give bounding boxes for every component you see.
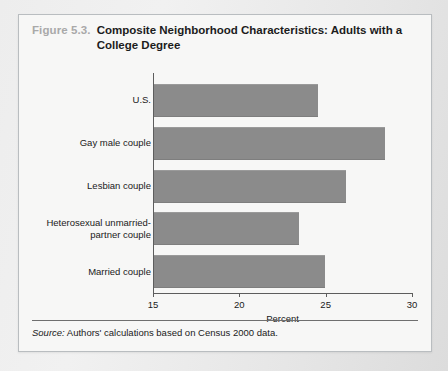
x-axis-tick — [239, 293, 240, 297]
x-axis-tick — [326, 293, 327, 297]
footer-divider — [32, 320, 418, 321]
page-title: Composite Neighborhood Characteristics: … — [97, 23, 415, 53]
category-label: Lesbian couple — [19, 180, 151, 192]
chart-bar — [154, 170, 346, 203]
category-label: Married couple — [19, 266, 151, 278]
source-note-label: Source: — [32, 327, 65, 338]
x-axis-title: Percent — [153, 313, 412, 324]
chart-plot-area: U.S.Gay male coupleLesbian coupleHeteros… — [19, 69, 433, 317]
figure-number-label: Figure 5.3. — [32, 23, 91, 38]
x-axis-tick-label: 25 — [320, 299, 331, 310]
figure-panel: Figure 5.3. Composite Neighborhood Chara… — [18, 14, 432, 352]
source-note: Source: Authors' calculations based on C… — [32, 326, 278, 339]
chart-bar — [154, 127, 385, 160]
x-axis-tick-label: 15 — [148, 299, 159, 310]
x-axis-spine — [153, 293, 412, 294]
chart-axes: Percent 15202530 — [153, 79, 413, 293]
category-label: U.S. — [19, 94, 151, 106]
x-axis-tick — [412, 293, 413, 297]
x-axis-tick-label: 30 — [407, 299, 418, 310]
category-axis-labels: U.S.Gay male coupleLesbian coupleHeteros… — [19, 79, 151, 293]
category-label: Heterosexual unmarried-partner couple — [19, 217, 151, 240]
figure-title-row: Figure 5.3. Composite Neighborhood Chara… — [32, 23, 419, 53]
chart-bar — [154, 255, 325, 288]
x-axis-tick — [153, 293, 154, 297]
chart-bar — [154, 212, 299, 245]
category-label: Gay male couple — [19, 137, 151, 149]
source-note-text: Authors' calculations based on Census 20… — [65, 327, 278, 338]
x-axis-tick-label: 20 — [234, 299, 245, 310]
chart-bar — [154, 84, 318, 117]
